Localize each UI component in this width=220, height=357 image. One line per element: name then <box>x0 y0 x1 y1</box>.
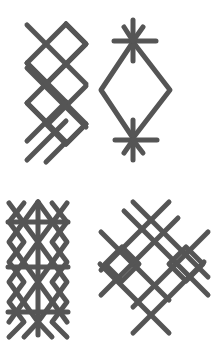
lattice-with-bars-icon <box>8 202 68 337</box>
ornament-figure <box>0 0 220 357</box>
